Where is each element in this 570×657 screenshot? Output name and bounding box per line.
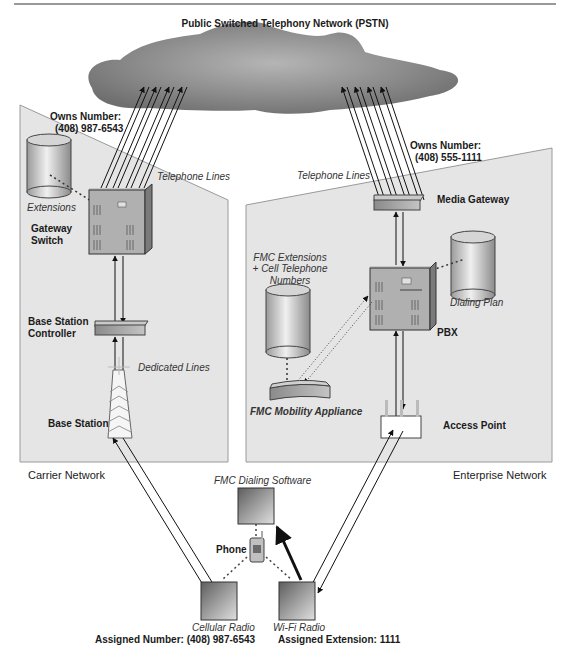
- media-gateway-label: Media Gateway: [437, 194, 509, 206]
- carrier-telephone-lines-label: Telephone Lines: [157, 171, 230, 183]
- dialing-plan-label: Dialing Plan: [450, 297, 503, 309]
- enterprise-telephone-lines-label: Telephone Lines: [297, 170, 370, 182]
- wifi-radio-label: Wi-Fi Radio: [273, 622, 325, 634]
- enterprise-owns-number-value: (408) 555-1111: [415, 152, 482, 164]
- cellular-radio-label: Cellular Radio: [192, 622, 255, 634]
- carrier-owns-number-value: (408) 987-6543: [55, 123, 123, 135]
- fmc-dialing-software-label: FMC Dialing Software: [214, 475, 311, 487]
- fmc-network-diagram: [0, 0, 570, 657]
- fmc-mobility-appliance-label: FMC Mobility Appliance: [250, 406, 362, 418]
- extensions-label: Extensions: [27, 202, 76, 214]
- pbx-label: PBX: [437, 327, 458, 339]
- assigned-extension-label: Assigned Extension: 1111: [278, 634, 400, 646]
- access-point-label: Access Point: [443, 420, 506, 432]
- assigned-number-label: Assigned Number: (408) 987-6543: [95, 634, 255, 646]
- wifi-radio-box: [279, 582, 315, 620]
- pstn-title: Public Switched Telephony Network (PSTN): [135, 18, 435, 30]
- fmc-extensions-database-icon: [266, 284, 310, 358]
- enterprise-owns-number-label: Owns Number:: [410, 140, 481, 152]
- gateway-switch-icon: [89, 184, 152, 254]
- fmc-extensions-label-3: Numbers: [245, 275, 335, 287]
- fmc-dialing-software-box: [238, 488, 274, 524]
- enterprise-network-label: Enterprise Network: [453, 469, 547, 481]
- dialing-plan-database-icon: [451, 231, 495, 301]
- cellular-radio-box: [201, 582, 237, 620]
- base-station-controller-icon: [95, 321, 148, 335]
- media-gateway-icon: [374, 195, 424, 210]
- pbx-icon: [370, 262, 436, 330]
- carrier-owns-number-label: Owns Number:: [50, 111, 121, 123]
- gateway-switch-label-2: Switch: [31, 235, 63, 247]
- fmc-extensions-label-2: + Cell Telephone: [245, 263, 335, 275]
- bsc-label-2: Controller: [28, 328, 76, 340]
- gateway-switch-label-1: Gateway: [31, 223, 72, 235]
- base-station-label: Base Station: [48, 418, 109, 430]
- phone-icon: [250, 531, 264, 562]
- phone-label: Phone: [216, 544, 247, 556]
- dedicated-lines-label: Dedicated Lines: [138, 362, 210, 374]
- carrier-network-label: Carrier Network: [28, 469, 105, 481]
- extensions-database-icon: [27, 134, 71, 198]
- bsc-label-1: Base Station: [28, 316, 89, 328]
